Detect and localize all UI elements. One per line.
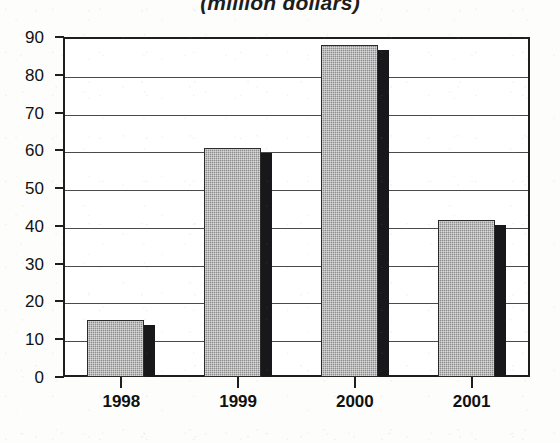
bar-face-1999 <box>204 148 261 377</box>
bar-side-1998 <box>144 325 155 377</box>
bar-side-2000 <box>378 50 389 377</box>
gridline-50 <box>65 190 528 191</box>
y-axis-tick-40 <box>55 225 64 227</box>
y-axis-label-30: 30 <box>0 255 44 272</box>
y-axis-label-10: 10 <box>0 331 44 348</box>
bar-side-1999 <box>261 153 272 377</box>
y-axis-label-80: 80 <box>0 66 44 83</box>
y-axis-tick-50 <box>55 187 64 189</box>
x-axis-label-2000: 2000 <box>310 392 400 412</box>
y-axis-tick-10 <box>55 338 64 340</box>
x-axis-tick-2000 <box>354 377 356 388</box>
y-axis-label-90: 90 <box>0 29 44 46</box>
y-axis-label-50: 50 <box>0 180 44 197</box>
y-axis-tick-0 <box>55 376 64 378</box>
bar-1999 <box>204 148 272 377</box>
bar-face-1998 <box>87 320 144 377</box>
x-axis-tick-2001 <box>471 377 473 388</box>
x-axis-tick-1999 <box>237 377 239 388</box>
x-axis-label-1999: 1999 <box>193 392 283 412</box>
y-axis-tick-30 <box>55 263 64 265</box>
chart-title: (million dollars) <box>0 0 560 15</box>
bar-face-2001 <box>438 220 495 377</box>
bar-2001 <box>438 220 506 377</box>
x-axis-label-1998: 1998 <box>76 392 166 412</box>
bar-2000 <box>321 45 389 377</box>
x-axis-label-2001: 2001 <box>427 392 517 412</box>
y-axis-label-20: 20 <box>0 293 44 310</box>
gridline-80 <box>65 77 528 78</box>
y-axis-label-40: 40 <box>0 217 44 234</box>
bar-face-2000 <box>321 45 378 377</box>
y-axis-tick-60 <box>55 149 64 151</box>
bar-1998 <box>87 320 155 377</box>
gridline-60 <box>65 152 528 153</box>
y-axis: 0102030405060708090 <box>0 37 44 377</box>
y-axis-label-60: 60 <box>0 142 44 159</box>
gridline-70 <box>65 115 528 116</box>
y-axis-tick-90 <box>55 36 64 38</box>
x-axis-tick-1998 <box>120 377 122 388</box>
y-axis-tick-80 <box>55 74 64 76</box>
y-axis-tick-20 <box>55 300 64 302</box>
bar-side-2001 <box>495 225 506 377</box>
y-axis-tick-70 <box>55 112 64 114</box>
y-axis-label-70: 70 <box>0 104 44 121</box>
y-axis-label-0: 0 <box>0 369 44 386</box>
